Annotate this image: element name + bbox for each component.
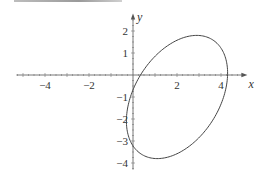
y-tick-label: 2: [123, 25, 129, 37]
x-axis-arrow: [241, 73, 247, 77]
y-tick-label: −1: [116, 91, 128, 103]
x-tick-label: 2: [174, 79, 180, 91]
y-tick-label: −4: [116, 157, 128, 169]
x-tick-label: −2: [83, 79, 95, 91]
y-axis-label: y: [136, 10, 143, 24]
y-axis-arrow: [131, 13, 135, 19]
ellipse-curve: [126, 35, 227, 158]
y-tick-label: 1: [123, 47, 129, 59]
y-tick-label: −3: [116, 135, 128, 147]
x-tick-label: −4: [39, 79, 51, 91]
x-axis-label: x: [247, 77, 254, 91]
chart: −4−22421−1−2−3−4 x y: [0, 0, 265, 180]
x-tick-label: 4: [218, 79, 224, 91]
